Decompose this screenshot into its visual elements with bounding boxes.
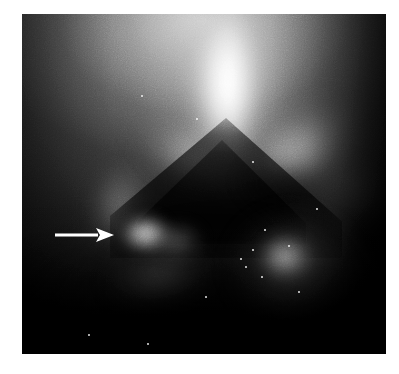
speckle-point bbox=[147, 343, 149, 345]
arrow-glyph bbox=[55, 228, 114, 242]
pointer-arrow bbox=[55, 226, 137, 244]
scan-image-plate bbox=[22, 14, 386, 354]
speckle-point bbox=[88, 334, 90, 336]
figure-root bbox=[0, 0, 399, 374]
bright-focus-right bbox=[254, 232, 316, 290]
